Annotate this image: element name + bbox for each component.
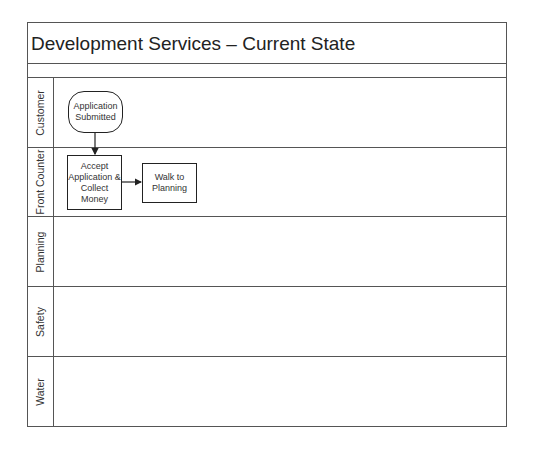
shape-walk-to-planning[interactable]: Walk to Planning: [142, 163, 197, 203]
shape-accept-application[interactable]: Accept Application & Collect Money: [67, 155, 122, 210]
shape-text: Accept Application & Collect Money: [68, 161, 121, 205]
connectors: [0, 0, 534, 449]
shape-application-submitted[interactable]: Application Submitted: [68, 91, 123, 133]
shape-text: Walk to Planning: [143, 172, 196, 194]
shape-text: Application Submitted: [69, 101, 122, 123]
